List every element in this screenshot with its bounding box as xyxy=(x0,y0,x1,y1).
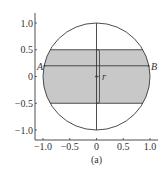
point-b xyxy=(148,65,150,67)
y-tick-4: −0.5 xyxy=(15,98,33,109)
label-a: A xyxy=(36,61,44,72)
y-axis: 1.0 0.5 0 −0.5 −1.0 xyxy=(15,13,37,140)
x-tick-4: 0.5 xyxy=(117,141,130,152)
label-b: B xyxy=(151,61,157,72)
x-tick-3: 0 xyxy=(94,141,99,152)
y-tick-3: 0 xyxy=(28,71,33,82)
point-a xyxy=(44,65,46,67)
point-r xyxy=(95,75,97,77)
y-tick-1: 1.0 xyxy=(21,18,34,29)
figure-caption: (a) xyxy=(91,154,102,166)
x-tick-2: −0.5 xyxy=(61,141,79,152)
y-tick-2: 0.5 xyxy=(21,44,34,55)
x-tick-1: −1.0 xyxy=(34,141,52,152)
y-tick-5: −1.0 xyxy=(15,125,33,136)
x-tick-5: 1.0 xyxy=(144,141,157,152)
x-axis: −1.0 −0.5 0 0.5 1.0 xyxy=(34,138,158,152)
diagram-figure: A B r 1.0 0.5 0 −0.5 −1.0 −1.0 −0.5 0 0.… xyxy=(0,0,168,172)
label-r: r xyxy=(102,71,106,82)
